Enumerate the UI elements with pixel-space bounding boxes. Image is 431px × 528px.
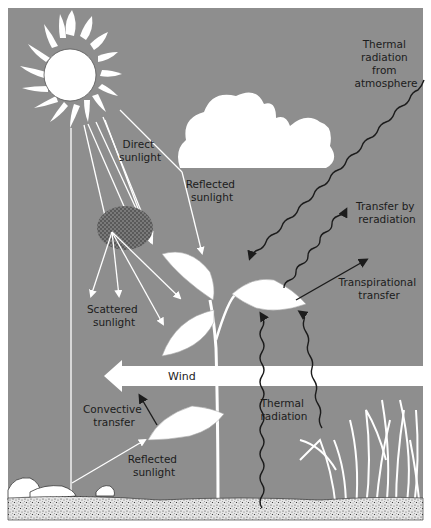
label-wind: Wind (168, 370, 196, 383)
label-scattered-sunlight: Scattered sunlight (87, 303, 141, 328)
ground (8, 496, 423, 520)
label-reflected-sunlight-bottom: Reflected sunlight (128, 453, 181, 478)
dust-particle-cloud (97, 206, 153, 250)
label-thermal-radiation-ground: Thermal radiation (260, 397, 308, 422)
label-transfer-by-reradiation: Transfer by reradiation (355, 200, 418, 225)
label-direct-sunlight: Direct sunlight (119, 138, 161, 163)
energy-exchange-diagram: Wind Direct sunlight Reflected sunlight … (0, 0, 431, 528)
label-reflected-sunlight-top: Reflected sunlight (186, 178, 239, 203)
